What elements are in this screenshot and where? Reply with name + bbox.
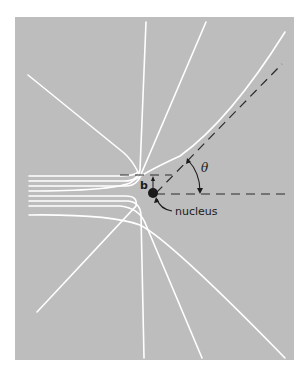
impact-parameter-label: b xyxy=(140,179,148,192)
diagram-canvas xyxy=(0,0,306,376)
scattering-diagram: b θ nucleus xyxy=(0,0,306,376)
nucleus-dot-icon xyxy=(148,188,158,198)
scattering-angle-label: θ xyxy=(201,161,208,175)
nucleus-label: nucleus xyxy=(175,205,218,218)
